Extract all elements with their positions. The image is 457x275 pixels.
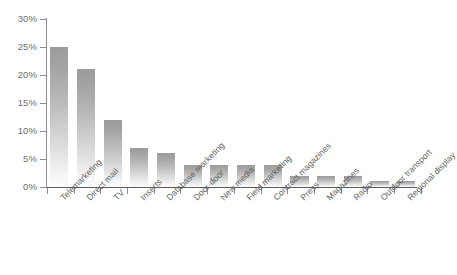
y-axis-tick-label: 15% <box>0 98 37 108</box>
bar <box>50 47 68 187</box>
x-axis-tick <box>207 188 208 194</box>
y-axis-tick <box>40 75 47 76</box>
x-axis-tick <box>74 188 75 194</box>
x-axis-tick <box>394 188 395 194</box>
x-axis-tick <box>180 188 181 194</box>
y-axis-tick-label: 20% <box>0 70 37 80</box>
y-axis-tick <box>40 187 47 188</box>
bar <box>237 165 255 187</box>
x-axis-tick <box>367 188 368 194</box>
bar <box>397 181 415 187</box>
bar-series <box>47 19 430 187</box>
x-axis-tick <box>47 188 48 194</box>
bar <box>344 176 362 187</box>
x-axis-tick <box>127 188 128 194</box>
y-axis-tick-label: 5% <box>0 154 37 164</box>
x-axis-tick <box>154 188 155 194</box>
y-axis-tick-label: 30% <box>0 14 37 24</box>
bar <box>264 165 282 187</box>
bar <box>130 148 148 187</box>
y-axis-tick <box>40 159 47 160</box>
x-axis-tick <box>314 188 315 194</box>
x-axis-tick <box>100 188 101 194</box>
bar <box>210 165 228 187</box>
bar <box>104 120 122 187</box>
x-axis-category-label: TV <box>112 188 126 202</box>
y-axis-tick <box>40 47 47 48</box>
x-axis-tick <box>261 188 262 194</box>
x-axis-tick <box>341 188 342 194</box>
x-axis-spine <box>46 187 417 188</box>
bar <box>77 69 95 187</box>
y-axis-tick-label: 10% <box>0 126 37 136</box>
bar <box>157 153 175 187</box>
x-axis-tick <box>421 188 422 194</box>
y-axis-tick <box>40 19 47 20</box>
bar <box>317 176 335 187</box>
y-axis-tick <box>40 131 47 132</box>
y-axis-tick-label: 0% <box>0 182 37 192</box>
y-axis-tick-label: 25% <box>0 42 37 52</box>
x-axis-tick <box>234 188 235 194</box>
bar <box>184 165 202 187</box>
bar <box>370 181 388 187</box>
x-axis-tick <box>287 188 288 194</box>
y-axis-tick <box>40 103 47 104</box>
bar <box>290 176 308 187</box>
